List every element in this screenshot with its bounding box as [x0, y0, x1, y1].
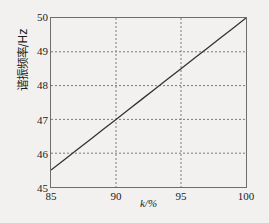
y-tick-label: 46: [8, 148, 48, 160]
y-tick-label: 49: [8, 45, 48, 57]
data-series-line: [51, 18, 246, 170]
y-tick-label: 48: [8, 79, 48, 91]
x-axis-label: k/%: [50, 197, 247, 209]
chart-figure: 谐振频率/Hz 45 46 47 48 49 50 85 90 95 100: [0, 0, 269, 223]
plot-area: [50, 17, 247, 188]
gridlines-vertical: [116, 18, 181, 187]
y-tick-label: 50: [8, 11, 48, 23]
y-tick-label: 47: [8, 114, 48, 126]
gridlines-horizontal: [51, 52, 246, 153]
plot-svg: [51, 18, 246, 187]
